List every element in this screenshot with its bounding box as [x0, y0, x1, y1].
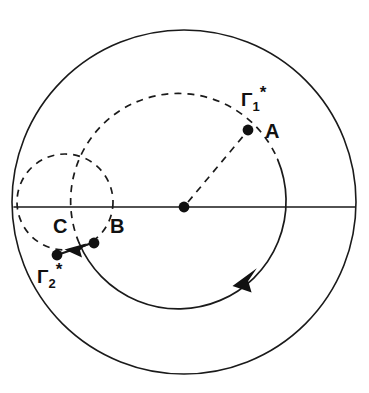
label-gamma2: Γ2* — [37, 262, 62, 290]
label-point-a: A — [265, 121, 279, 141]
label-gamma2-subscript: 2 — [48, 276, 55, 291]
point-A-dot — [243, 125, 254, 136]
label-point-b: B — [110, 216, 124, 236]
label-point-c: C — [53, 216, 67, 236]
label-gamma1-subscript: 1 — [252, 99, 259, 114]
point-origin-dot — [179, 202, 190, 213]
label-gamma2-base: Γ — [37, 266, 48, 287]
radius-origin-to-A — [188, 134, 245, 202]
diagram-svg — [0, 0, 369, 393]
label-gamma1-superscript: * — [260, 83, 267, 102]
label-gamma1-base: Γ — [241, 89, 252, 110]
figure-canvas: Γ1* A B C Γ2* — [0, 0, 369, 393]
gamma1-direction-arrowhead — [233, 268, 257, 292]
point-B-dot — [89, 238, 100, 249]
label-gamma2-superscript: * — [56, 260, 63, 279]
point-C-dot — [52, 250, 63, 261]
gamma1-dashed-arc — [71, 93, 278, 243]
label-gamma1: Γ1* — [241, 85, 266, 113]
